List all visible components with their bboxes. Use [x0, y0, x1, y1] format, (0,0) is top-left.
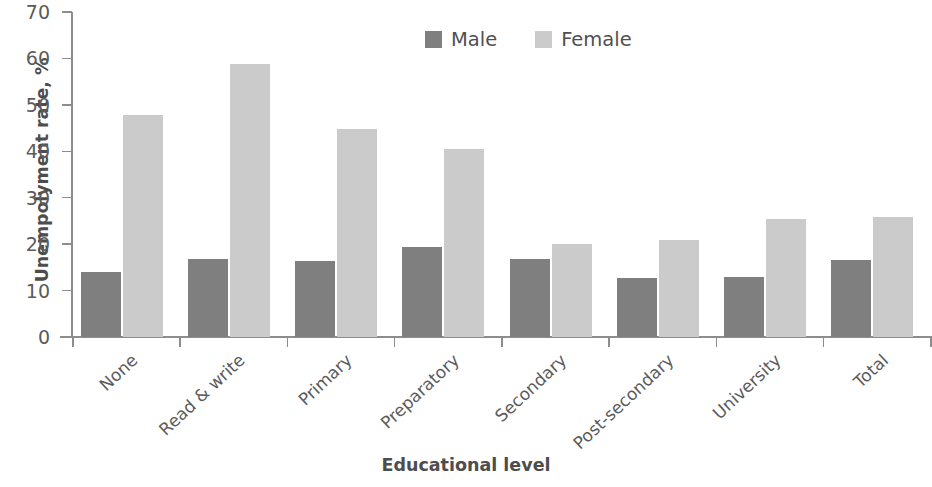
bar-male — [188, 259, 228, 337]
legend-item-male: Male — [425, 28, 497, 51]
bar-group — [394, 12, 501, 337]
x-category-label: None — [34, 350, 141, 452]
x-tick-mark — [72, 337, 74, 347]
bar-female — [552, 244, 592, 337]
unemployment-rate-bar-chart: Unempolyment rate, % 010203040506070 Non… — [0, 0, 932, 487]
bar-male — [831, 260, 871, 337]
y-tick-mark — [62, 243, 72, 245]
legend-label: Male — [451, 28, 497, 51]
y-tick-mark — [62, 290, 72, 292]
bar-group — [608, 12, 715, 337]
legend-swatch-icon — [425, 31, 442, 48]
legend-swatch-icon — [535, 31, 552, 48]
x-tick-mark — [287, 337, 289, 347]
bar-female — [659, 240, 699, 337]
bar-group — [716, 12, 823, 337]
bar-male — [510, 259, 550, 337]
x-axis-title: Educational level — [0, 455, 932, 475]
y-tick-label: 30 — [0, 187, 50, 209]
x-tick-mark — [823, 337, 825, 347]
y-tick-mark — [62, 58, 72, 60]
bar-group — [72, 12, 179, 337]
y-tick-label: 70 — [0, 1, 50, 23]
x-tick-mark — [501, 337, 503, 347]
bar-male — [724, 277, 764, 337]
legend-item-female: Female — [535, 28, 632, 51]
bar-male — [295, 261, 335, 337]
y-tick-label: 10 — [0, 280, 50, 302]
y-tick-label: 40 — [0, 140, 50, 162]
bar-female — [873, 217, 913, 337]
y-tick-label: 60 — [0, 47, 50, 69]
x-tick-mark — [179, 337, 181, 347]
bar-female — [337, 129, 377, 337]
y-tick-mark — [62, 104, 72, 106]
bar-group — [501, 12, 608, 337]
bar-female — [230, 64, 270, 337]
y-tick-mark — [62, 151, 72, 153]
y-tick-mark — [62, 336, 72, 338]
bar-female — [123, 115, 163, 337]
chart-legend: MaleFemale — [425, 28, 632, 51]
x-tick-mark — [608, 337, 610, 347]
bar-group — [823, 12, 930, 337]
bar-group — [287, 12, 394, 337]
bar-male — [402, 247, 442, 337]
y-tick-mark — [62, 11, 72, 13]
legend-label: Female — [561, 28, 632, 51]
x-tick-mark — [394, 337, 396, 347]
y-tick-label: 0 — [0, 326, 50, 348]
y-tick-label: 50 — [0, 94, 50, 116]
bar-female — [766, 219, 806, 337]
plot-area — [72, 12, 930, 337]
bar-male — [81, 272, 121, 337]
bar-group — [179, 12, 286, 337]
x-tick-mark — [930, 337, 932, 347]
bar-female — [444, 149, 484, 337]
y-tick-mark — [62, 197, 72, 199]
bar-male — [617, 278, 657, 337]
y-tick-label: 20 — [0, 233, 50, 255]
x-tick-mark — [716, 337, 718, 347]
